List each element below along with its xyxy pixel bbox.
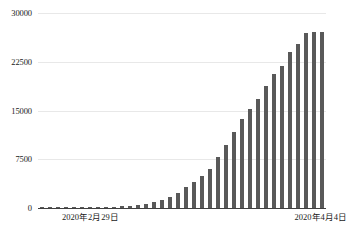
bar bbox=[168, 197, 173, 208]
bar bbox=[248, 109, 253, 208]
bar bbox=[224, 145, 229, 208]
y-tick-label: 30000 bbox=[11, 9, 32, 18]
x-tick-label-end: 2020年4月4日 bbox=[295, 213, 348, 222]
y-tick-label: 22500 bbox=[11, 58, 32, 67]
bar bbox=[320, 32, 325, 208]
bar bbox=[208, 169, 213, 208]
bar bbox=[192, 182, 197, 208]
bar bbox=[272, 74, 277, 208]
bar bbox=[216, 157, 221, 208]
bar bbox=[176, 193, 181, 208]
bar bbox=[288, 52, 293, 208]
bars-series bbox=[38, 13, 326, 208]
bar bbox=[280, 66, 285, 208]
x-axis-line bbox=[38, 208, 326, 209]
y-tick-label: 7500 bbox=[15, 155, 32, 164]
bar bbox=[200, 176, 205, 208]
bar bbox=[264, 86, 269, 208]
bar bbox=[184, 187, 189, 208]
bar bbox=[256, 99, 261, 208]
y-tick-label: 15000 bbox=[11, 106, 32, 115]
bar bbox=[312, 32, 317, 208]
bar bbox=[232, 132, 237, 208]
x-tick-label-start: 2020年2月29日 bbox=[62, 213, 119, 222]
x-axis: 2020年2月29日 2020年4月4日 bbox=[0, 210, 351, 239]
bar bbox=[240, 119, 245, 208]
bar-chart: 07500150002250030000 2020年2月29日 2020年4月4… bbox=[0, 0, 351, 239]
plot-area bbox=[38, 13, 326, 208]
y-axis: 07500150002250030000 bbox=[0, 0, 36, 239]
bar bbox=[304, 33, 309, 208]
bar bbox=[296, 44, 301, 208]
